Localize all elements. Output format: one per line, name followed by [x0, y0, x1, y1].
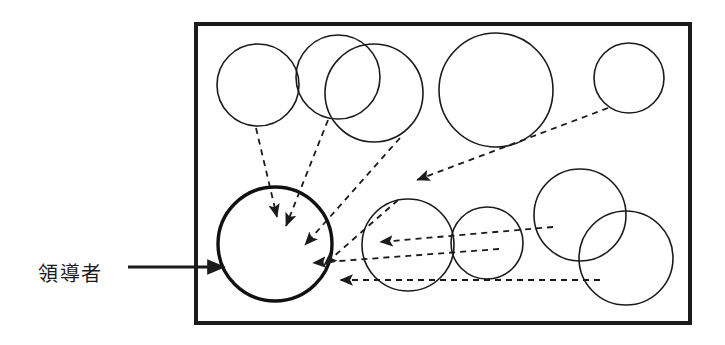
agent-circle-group [217, 33, 673, 305]
follower-circle [325, 44, 423, 142]
leader-follower-diagram: 領導者 [0, 0, 725, 345]
follower-circle [362, 199, 454, 291]
leader-circle [218, 187, 332, 301]
follower-circle [217, 44, 299, 126]
influence-arrow [305, 138, 400, 245]
influence-arrow [380, 227, 553, 242]
follower-circle [439, 33, 553, 147]
influence-arrow [324, 200, 398, 265]
influence-arrow [256, 128, 277, 217]
diagram-canvas: 領導者 [0, 0, 725, 345]
follower-circle [579, 211, 673, 305]
follower-circle [451, 207, 523, 279]
follower-circle [594, 43, 664, 113]
follower-circle [296, 35, 380, 119]
influence-arrow [313, 249, 499, 263]
leader-label: 領導者 [38, 262, 103, 286]
